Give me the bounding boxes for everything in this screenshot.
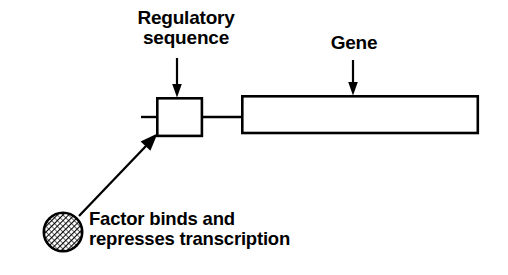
factor-binding-arrow — [79, 134, 158, 217]
repressor-factor-circle — [42, 211, 84, 253]
gene-box — [242, 96, 477, 133]
regulatory-sequence-label: Regulatorysequence — [126, 8, 246, 49]
diagram-canvas: Regulatorysequence Gene Factor binds and… — [0, 0, 508, 275]
factor-caption-line1: Factor binds and — [89, 209, 290, 229]
regulatory-sequence-label-line1: Regulatory — [126, 8, 246, 28]
factor-caption-line2: represses transcription — [89, 229, 290, 249]
gene-label: Gene — [322, 33, 386, 53]
regulatory-sequence-box — [157, 98, 202, 136]
regulatory-sequence-pointer-arrow — [172, 58, 182, 98]
gene-pointer-arrow — [348, 60, 358, 96]
regulatory-sequence-label-line2: sequence — [126, 28, 246, 48]
factor-caption: Factor binds andrepresses transcription — [89, 209, 290, 249]
